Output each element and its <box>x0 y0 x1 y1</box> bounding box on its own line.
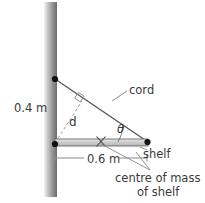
wall-pole <box>44 2 57 197</box>
shelf-label: shelf <box>143 147 172 161</box>
shelf-length-label: 0.6 m <box>87 152 120 166</box>
distance-d-label: d <box>69 115 77 129</box>
angle-theta-label: θ <box>117 122 125 136</box>
cord-label: cord <box>129 83 154 97</box>
diagram-canvas: 0.4 m 0.6 m cord d θ shelf centre of mas… <box>0 0 205 203</box>
shelf-end-dot <box>144 139 150 145</box>
shelf-hinge-dot <box>52 141 58 147</box>
wall-height-label: 0.4 m <box>14 101 47 115</box>
centre-of-mass-label-line1: centre of mass <box>115 171 200 185</box>
physics-diagram-shelf-cord: 0.4 m 0.6 m cord d θ shelf centre of mas… <box>0 0 205 203</box>
centre-of-mass-label-line2: of shelf <box>137 185 180 199</box>
cord-leader-line <box>112 91 127 101</box>
cord-wall-anchor-dot <box>52 76 58 82</box>
